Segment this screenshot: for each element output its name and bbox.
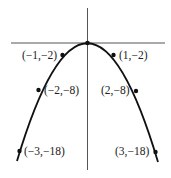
point-pos3 bbox=[153, 150, 157, 154]
point-pos2 bbox=[134, 89, 138, 93]
parabola-chart: (−1,−2) (1,−2) (−2,−8) (2,−8) (−3,−18) (… bbox=[0, 0, 171, 178]
label-pos2: (2,−8) bbox=[101, 84, 130, 97]
vertex-point bbox=[85, 41, 90, 46]
point-neg2 bbox=[36, 88, 40, 92]
label-neg2: (−2,−8) bbox=[44, 84, 79, 97]
label-neg1: (−1,−2) bbox=[22, 49, 57, 62]
point-pos1 bbox=[111, 53, 115, 57]
point-neg1 bbox=[60, 53, 64, 57]
point-neg3 bbox=[17, 149, 21, 153]
label-neg3: (−3,−18) bbox=[24, 145, 65, 158]
label-pos1: (1,−2) bbox=[119, 49, 148, 62]
label-pos3: (3,−18) bbox=[115, 145, 149, 158]
